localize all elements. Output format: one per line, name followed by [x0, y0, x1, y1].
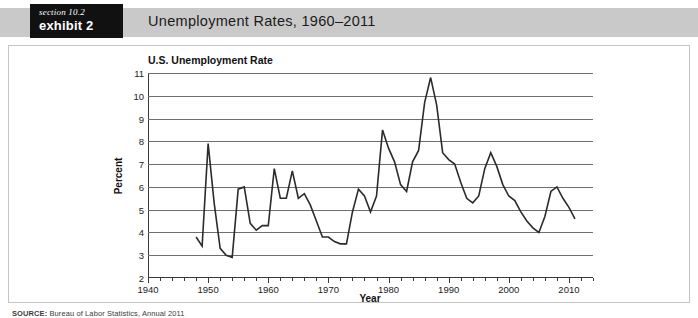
y-axis-tick-label: 9 [139, 113, 144, 124]
x-axis-tick [208, 278, 209, 283]
x-axis-tick-label: 2010 [558, 284, 579, 295]
x-axis-tick [160, 278, 161, 281]
x-axis-tick [148, 278, 149, 283]
x-axis-tick [545, 278, 546, 281]
y-axis-tick-label: 8 [139, 136, 144, 147]
x-axis-tick [184, 278, 185, 281]
x-axis-tick [521, 278, 522, 281]
y-axis-tick-label: 7 [139, 159, 144, 170]
x-axis-tick [569, 278, 570, 283]
y-axis-tick-label: 6 [139, 181, 144, 192]
y-axis-title: Percent [113, 158, 124, 195]
source-note: SOURCE: Bureau of Labor Statistics, Annu… [12, 309, 185, 318]
y-axis-tick-label: 3 [139, 250, 144, 261]
exhibit-tag: section 10.2 exhibit 2 [30, 4, 123, 38]
y-axis-tick-label: 2 [139, 273, 144, 284]
page-title: Unemployment Rates, 1960–2011 [148, 13, 376, 29]
x-axis-tick-label: 1990 [438, 284, 459, 295]
x-axis-tick-label: 2000 [498, 284, 519, 295]
x-axis-tick [280, 278, 281, 281]
source-label: SOURCE: [12, 309, 47, 318]
plot-area: 234567891011 194019501960197019801990200… [148, 73, 593, 278]
x-axis-tick [304, 278, 305, 281]
y-axis-tick-label: 4 [139, 227, 144, 238]
x-axis-tick [461, 278, 462, 281]
x-axis-tick-label: 1970 [318, 284, 339, 295]
x-axis-tick [581, 278, 582, 281]
x-axis-tick-label: 1980 [378, 284, 399, 295]
y-axis-tick-label: 10 [133, 90, 144, 101]
x-axis-tick [377, 278, 378, 281]
x-axis-tick [316, 278, 317, 281]
x-axis-tick [593, 278, 594, 281]
y-axis-tick-label: 5 [139, 204, 144, 215]
x-axis-tick [533, 278, 534, 281]
x-axis-tick [364, 278, 365, 281]
x-axis-tick [232, 278, 233, 281]
x-axis-tick [449, 278, 450, 283]
section-label: section 10.2 [39, 7, 123, 18]
x-axis-tick [497, 278, 498, 281]
x-axis-tick [352, 278, 353, 281]
x-axis-tick-label: 1950 [198, 284, 219, 295]
x-axis-tick [244, 278, 245, 281]
x-axis-tick [473, 278, 474, 281]
x-axis-tick [401, 278, 402, 281]
x-axis-tick [413, 278, 414, 281]
x-axis-tick-label: 1960 [258, 284, 279, 295]
x-axis-tick [340, 278, 341, 281]
x-axis-tick [389, 278, 390, 283]
x-axis-tick [437, 278, 438, 281]
x-axis-tick [256, 278, 257, 281]
x-axis-tick [172, 278, 173, 281]
x-axis-tick-label: 1940 [137, 284, 158, 295]
x-axis-tick [196, 278, 197, 281]
x-axis-tick [509, 278, 510, 283]
exhibit-label: exhibit 2 [39, 18, 123, 33]
chart-title: U.S. Unemployment Rate [148, 54, 273, 66]
x-axis-tick [328, 278, 329, 283]
x-axis-tick [220, 278, 221, 281]
unemployment-chart: U.S. Unemployment Rate Percent Year 2345… [0, 45, 698, 303]
x-axis-tick [425, 278, 426, 281]
data-series-line [148, 73, 593, 278]
x-axis-tick [292, 278, 293, 281]
x-axis-tick [485, 278, 486, 281]
x-axis-tick [268, 278, 269, 283]
x-axis-tick [557, 278, 558, 281]
y-axis-tick-label: 11 [134, 68, 144, 79]
source-text: Bureau of Labor Statistics, Annual 2011 [47, 309, 184, 318]
